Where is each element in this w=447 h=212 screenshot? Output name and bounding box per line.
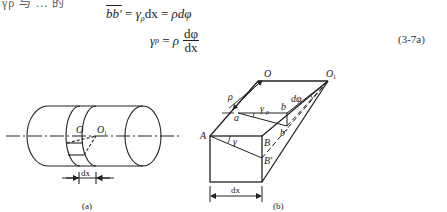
fig-b-label-gamma-rho: γ	[260, 103, 265, 114]
fig-b-label-rho: ρ	[227, 91, 233, 102]
fig-b-label-A: A	[199, 130, 207, 141]
fig-b-label-dphi: dφ	[291, 93, 302, 104]
figure-a-cylinder	[6, 106, 181, 184]
fig-b-label-O: O	[264, 68, 271, 79]
fig-b-caption: (b)	[273, 201, 284, 211]
fig-b-label-B-prime: B′	[264, 155, 273, 166]
fig-b-label-b: b	[281, 101, 286, 112]
fig-b-label-B: B	[264, 137, 270, 148]
fig-b-label-O1-sub: 1	[333, 74, 336, 80]
figures: O O 1 dx (a) O O 1 ρ γ ρ a b dφ b′ A B B…	[0, 0, 447, 212]
fig-a-label-O: O	[76, 124, 83, 135]
fig-b-label-b-prime: b′	[280, 127, 288, 138]
fig-b-label-a: a	[234, 112, 239, 123]
fig-b-label-gamma: γ	[233, 136, 238, 147]
fig-b-label-dx: dx	[231, 185, 241, 195]
fig-a-label-O1-sub: 1	[104, 130, 107, 136]
fig-b-label-gamma-rho-sub: ρ	[265, 109, 269, 115]
fig-a-caption: (a)	[82, 201, 92, 211]
fig-a-label-dx: dx	[81, 168, 91, 178]
